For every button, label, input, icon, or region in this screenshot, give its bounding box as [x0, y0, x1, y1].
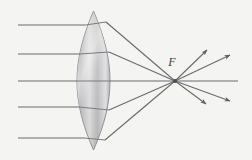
focal-point-marker [173, 79, 177, 83]
diagram-background [0, 0, 252, 160]
lens-ray-diagram-figure: F [0, 0, 252, 160]
focal-point-label: F [167, 55, 176, 69]
diagram-canvas: F [0, 0, 252, 160]
